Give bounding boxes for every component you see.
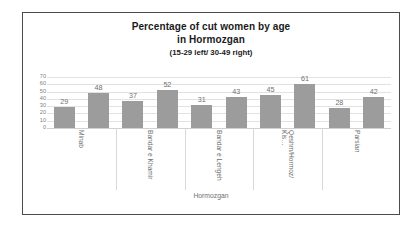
y-tick-label-70: 70 [40, 74, 46, 80]
bar-value-label: 42 [357, 88, 391, 96]
bar[interactable] [260, 95, 281, 128]
category-axis-label: Qeshm/Hormoz/Kis… [280, 130, 295, 178]
bar[interactable] [191, 105, 212, 128]
bar-slot: 29 [47, 77, 81, 128]
chart-subtitle: (15-29 left/ 30-49 right) [23, 47, 399, 59]
bar-slot: 37 [116, 77, 150, 128]
bar-slot: 48 [81, 77, 115, 128]
bar-value-label: 29 [47, 98, 81, 106]
bar-slot: 52 [150, 77, 184, 128]
bar-value-label: 45 [253, 86, 287, 94]
x-axis-title: Hormozgan [23, 192, 399, 199]
category-axis-label: Bandar e Khamir [146, 130, 153, 179]
y-tick-label-40: 40 [40, 96, 46, 102]
bar-slot: 45 [253, 77, 287, 128]
bar-value-label: 52 [150, 81, 184, 89]
category-separator [116, 128, 117, 190]
bar[interactable] [54, 107, 75, 128]
category-separator [322, 128, 323, 190]
y-tick-label-20: 20 [40, 111, 46, 117]
bar-slot: 43 [219, 77, 253, 128]
bar-value-label: 28 [322, 99, 356, 107]
category-separator [253, 128, 254, 190]
plot-area: 29483752314345612842 [47, 77, 391, 128]
bar-slot: 28 [322, 77, 356, 128]
bar[interactable] [226, 97, 247, 128]
category-axis-label: Bandar e Lengeh [215, 130, 222, 181]
chart-title-line-2: in Hormozgan [23, 34, 399, 47]
bar[interactable] [294, 84, 315, 128]
bar[interactable] [122, 101, 143, 128]
category-slot: Parsian [322, 128, 391, 190]
chart-title-block: Percentage of cut women by age in Hormoz… [23, 21, 399, 59]
bar-value-label: 61 [288, 75, 322, 83]
bar-slot: 42 [357, 77, 391, 128]
y-tick-label-0: 0 [43, 125, 46, 131]
bar-slot: 61 [288, 77, 322, 128]
category-slot: Minab [47, 128, 116, 190]
chart-title-line-1: Percentage of cut women by age [23, 21, 399, 34]
y-tick-label-30: 30 [40, 103, 46, 109]
bar-slot: 31 [185, 77, 219, 128]
category-axis-label-line: Kis… [280, 130, 287, 178]
category-separator [185, 128, 186, 190]
bar-value-label: 43 [219, 88, 253, 96]
category-axis-label-line: Parsian [353, 130, 360, 152]
bar[interactable] [363, 97, 384, 128]
y-tick-label-60: 60 [40, 81, 46, 87]
y-tick-label-50: 50 [40, 89, 46, 95]
category-slot: Bandar e Lengeh [185, 128, 254, 190]
category-axis-label: Parsian [353, 130, 360, 152]
bar[interactable] [157, 90, 178, 128]
category-slot: Qeshm/Hormoz/Kis… [253, 128, 322, 190]
y-axis-tick-labels: 706050403020100 [29, 75, 46, 130]
bar[interactable] [329, 108, 350, 128]
bar-series: 29483752314345612842 [47, 77, 391, 128]
bar-value-label: 48 [81, 84, 115, 92]
bar[interactable] [88, 93, 109, 128]
bar-value-label: 37 [116, 92, 150, 100]
y-tick-label-10: 10 [40, 118, 46, 124]
category-axis-label-line: Minab [78, 130, 85, 148]
category-axis-label-line: Bandar e Khamir [147, 130, 154, 179]
category-axis-label-line: Bandar e Lengeh [216, 130, 223, 181]
bar-value-label: 31 [185, 96, 219, 104]
category-axis-label: Minab [78, 130, 85, 148]
category-axis: MinabBandar e KhamirBandar e LengehQeshm… [47, 128, 391, 190]
category-slot: Bandar e Khamir [116, 128, 185, 190]
chart-container: Percentage of cut women by age in Hormoz… [22, 12, 400, 215]
category-axis-label-line: Qeshm/Hormoz/ [288, 130, 295, 178]
